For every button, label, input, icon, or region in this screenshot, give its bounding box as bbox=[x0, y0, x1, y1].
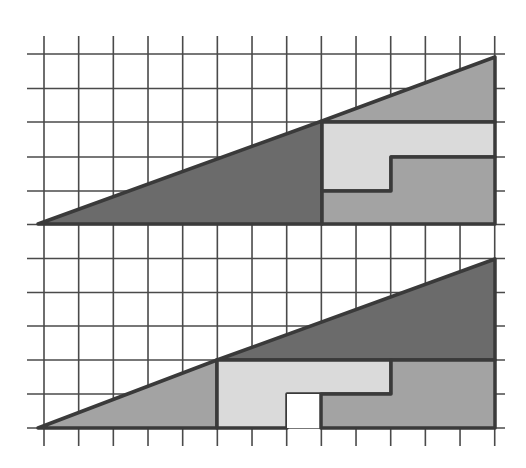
missing-square bbox=[287, 394, 321, 428]
missing-square-diagram bbox=[0, 0, 526, 468]
bottom-triangle-figure bbox=[38, 259, 495, 428]
top-dark-triangle bbox=[38, 121, 322, 224]
top-triangle-figure bbox=[38, 57, 495, 224]
top-medium-triangle bbox=[322, 57, 495, 122]
